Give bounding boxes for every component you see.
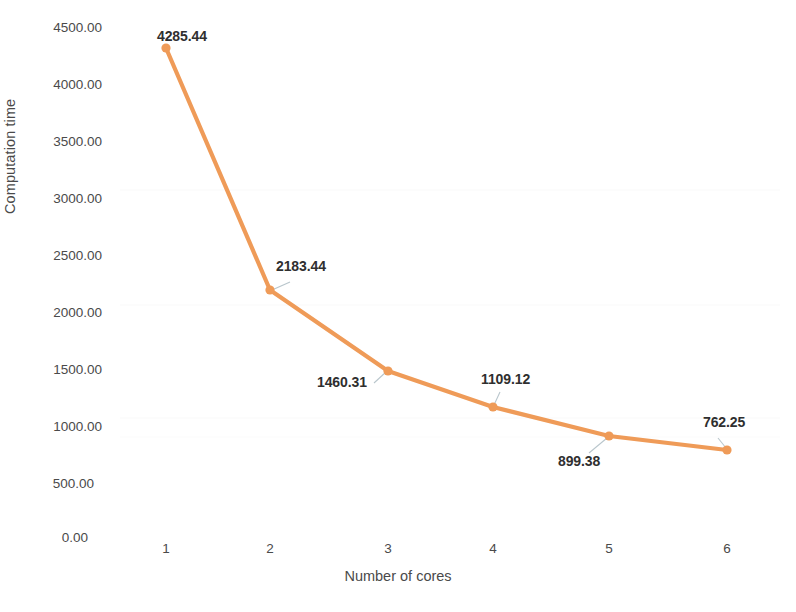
x-axis-tick-labels: 1 2 3 4 5 6: [0, 0, 796, 612]
faint-scan-caption: [0, 601, 796, 612]
x-axis-title: Number of cores: [298, 568, 498, 584]
x-tick-label: 2: [250, 541, 290, 556]
x-tick-label: 4: [473, 541, 513, 556]
x-tick-label: 6: [707, 541, 747, 556]
x-tick-label: 3: [368, 541, 408, 556]
x-tick-label: 5: [589, 541, 629, 556]
line-chart-figure: Computation time 4500.00 4000.00 3500.00…: [0, 0, 796, 612]
x-tick-label: 1: [146, 541, 186, 556]
